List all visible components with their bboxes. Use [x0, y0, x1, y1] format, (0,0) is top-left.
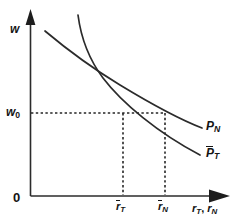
origin-label: 0	[13, 191, 20, 204]
y-axis-label: w	[10, 23, 19, 35]
curve-label-pt-bar: PT	[206, 147, 219, 161]
x-tick-label-rn: rN	[158, 201, 168, 214]
figure-canvas	[0, 0, 245, 224]
curve-label-pn: PN	[206, 120, 220, 134]
y-axis-arrow-icon	[26, 9, 36, 25]
curve-pt-bar	[78, 15, 200, 155]
x-tick-label-rt: rT	[116, 201, 125, 214]
x-axis-arrow-icon	[209, 190, 230, 203]
w0-value-label: w0	[6, 106, 20, 120]
isoprice-curve-figure: w w0 0 rT rN rT, rN PN PT	[0, 0, 245, 224]
x-axis-label: rT, rN	[192, 203, 217, 216]
